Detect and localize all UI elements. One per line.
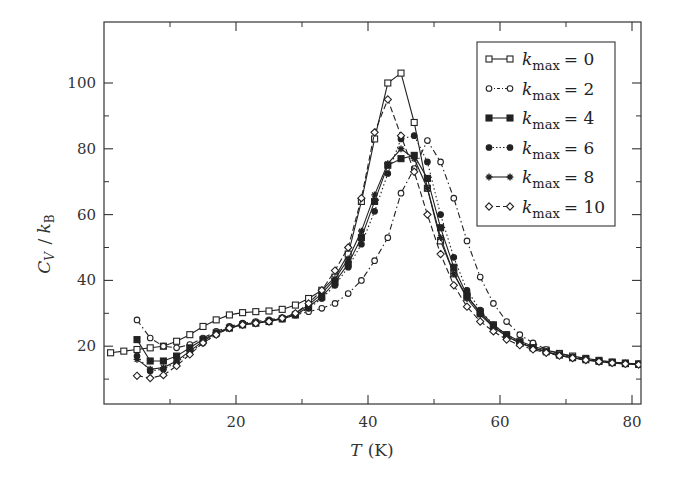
- data-point-marker: [425, 138, 431, 144]
- x-tick-label: 40: [358, 413, 377, 431]
- data-point-marker: [398, 145, 405, 152]
- data-point-marker: [359, 241, 365, 247]
- data-point-marker: [134, 346, 140, 352]
- data-point-marker: [200, 323, 206, 329]
- data-point-marker: [147, 358, 153, 364]
- legend-marker: [486, 174, 493, 181]
- data-point-marker: [134, 317, 140, 323]
- data-point-marker: [279, 306, 285, 312]
- legend-marker: [486, 56, 492, 62]
- legend-marker: [507, 145, 513, 151]
- data-point-marker: [147, 375, 154, 382]
- data-point-marker: [385, 171, 391, 177]
- legend-marker: [507, 56, 513, 62]
- data-point-marker: [160, 364, 167, 371]
- data-point-marker: [424, 175, 430, 181]
- legend-marker: [507, 174, 514, 181]
- data-point-marker: [411, 119, 417, 125]
- data-point-marker: [240, 310, 246, 316]
- heat-capacity-chart: 2040608020406080100 kmax= 0kmax= 2kmax= …: [0, 0, 675, 485]
- data-point-marker: [147, 335, 153, 341]
- data-point-marker: [332, 275, 339, 282]
- data-point-marker: [385, 235, 391, 241]
- legend-marker: [486, 86, 492, 92]
- data-point-marker: [438, 159, 444, 165]
- data-point-marker: [517, 332, 523, 338]
- data-point-marker: [372, 258, 378, 264]
- x-axis-title: T(K): [350, 440, 393, 460]
- data-point-marker: [450, 282, 457, 289]
- data-point-marker: [437, 234, 444, 241]
- legend-marker: [486, 115, 492, 121]
- data-point-marker: [424, 185, 431, 192]
- y-tick-label: 20: [77, 337, 96, 355]
- y-axis-title: CV / kB: [34, 214, 57, 274]
- data-point-marker: [491, 301, 497, 307]
- data-point-marker: [398, 190, 404, 196]
- x-tick-label: 60: [490, 413, 509, 431]
- data-point-marker: [424, 211, 431, 218]
- data-point-marker: [451, 195, 457, 201]
- data-point-marker: [451, 255, 457, 261]
- data-point-marker: [438, 212, 444, 218]
- data-point-marker: [174, 345, 180, 351]
- data-point-marker: [266, 308, 272, 314]
- data-point-marker: [359, 278, 365, 284]
- data-point-marker: [174, 338, 180, 344]
- y-tick-label: 60: [77, 206, 96, 224]
- data-point-marker: [425, 159, 431, 165]
- data-point-marker: [384, 96, 391, 103]
- data-point-marker: [385, 80, 391, 86]
- data-point-marker: [345, 264, 351, 270]
- data-point-marker: [226, 312, 232, 318]
- y-tick-label: 80: [77, 140, 96, 158]
- data-point-marker: [398, 156, 404, 162]
- data-point-marker: [464, 238, 470, 244]
- y-tick-label: 100: [67, 74, 96, 92]
- data-point-marker: [504, 319, 510, 325]
- data-point-marker: [371, 191, 378, 198]
- data-point-marker: [358, 228, 365, 235]
- data-point-marker: [213, 317, 219, 323]
- legend-marker: [507, 115, 513, 121]
- data-point-marker: [253, 309, 259, 315]
- data-point-marker: [134, 337, 140, 343]
- data-point-marker: [160, 372, 167, 379]
- legend-marker: [486, 145, 492, 151]
- data-point-marker: [372, 209, 378, 215]
- data-point-marker: [160, 358, 166, 364]
- data-point-marker: [292, 302, 298, 308]
- data-point-marker: [133, 372, 140, 379]
- x-tick-label: 20: [226, 413, 245, 431]
- data-point-marker: [464, 287, 470, 293]
- data-point-marker: [108, 350, 114, 356]
- data-point-marker: [319, 306, 325, 312]
- data-point-marker: [477, 274, 483, 280]
- data-point-marker: [437, 250, 444, 257]
- data-point-marker: [187, 332, 193, 338]
- legend: kmax= 0kmax= 2kmax= 4kmax= 6kmax= 8kmax=…: [477, 42, 615, 226]
- x-tick-label: 80: [622, 413, 641, 431]
- data-point-marker: [161, 343, 167, 349]
- data-point-marker: [332, 283, 338, 289]
- data-point-marker: [398, 70, 404, 76]
- legend-marker: [507, 86, 513, 92]
- data-point-marker: [147, 345, 153, 351]
- data-point-marker: [464, 295, 471, 302]
- data-point-marker: [411, 133, 417, 139]
- y-tick-label: 40: [77, 271, 96, 289]
- data-point-marker: [345, 291, 351, 297]
- data-point-marker: [332, 301, 338, 307]
- data-point-marker: [121, 348, 127, 354]
